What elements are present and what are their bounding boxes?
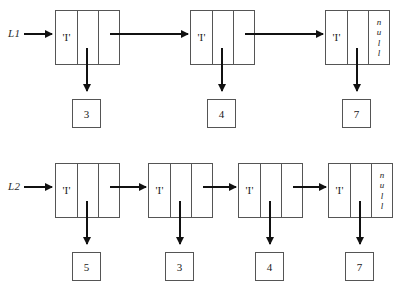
linked-list-diagram: L1 'I' 3 'I' 4: [0, 0, 401, 307]
null-char: l: [381, 191, 384, 201]
node-char-label: 'I': [62, 32, 70, 43]
node-cell-char: 'I': [191, 11, 212, 64]
node-cell-char: 'I': [329, 164, 350, 217]
next-pointer-arrow: [110, 33, 188, 35]
head-arrow-l1: [24, 33, 52, 35]
node-cell-next-pointer: [281, 164, 302, 217]
node-cell-char: 'I': [56, 164, 77, 217]
head-arrow-l2: [24, 186, 52, 188]
value-box: 5: [72, 252, 101, 281]
next-pointer-arrow: [245, 33, 323, 35]
value-pointer-arrow: [356, 48, 358, 91]
node-cell-char: 'I': [326, 11, 347, 64]
node-cell-next-pointer: [233, 11, 254, 64]
node-cell-next-pointer: [191, 164, 212, 217]
value-pointer-arrow: [86, 48, 88, 91]
value-box: 4: [207, 99, 236, 128]
node-char-label: 'I': [155, 185, 163, 196]
value-pointer-arrow: [269, 201, 271, 244]
list-row-l2: L2 'I' 5 'I' 3: [0, 153, 401, 307]
node-char-label: 'I': [335, 185, 343, 196]
value-text: 7: [354, 108, 360, 120]
node-cell-next-pointer: [98, 11, 119, 64]
value-box: 7: [345, 252, 374, 281]
next-pointer-arrow: [203, 186, 236, 188]
node-cell-char: 'I': [149, 164, 170, 217]
node-char-label: 'I': [332, 32, 340, 43]
value-pointer-arrow: [221, 48, 223, 91]
value-box: 3: [165, 252, 194, 281]
next-pointer-arrow: [110, 186, 146, 188]
node-cell-next-null: n u l l: [368, 11, 389, 64]
value-pointer-arrow: [359, 201, 361, 244]
null-label: n u l l: [380, 170, 385, 211]
list-head-label-l2: L2: [8, 180, 20, 192]
list-head-label-l1: L1: [8, 27, 20, 39]
node-char-label: 'I': [245, 185, 253, 196]
null-label: n u l l: [377, 17, 382, 58]
null-char: n: [380, 170, 385, 180]
null-char: u: [377, 27, 382, 37]
value-text: 5: [84, 261, 90, 273]
node-cell-char: 'I': [239, 164, 260, 217]
value-pointer-arrow: [86, 201, 88, 244]
value-text: 3: [177, 261, 183, 273]
null-char: n: [377, 17, 382, 27]
value-text: 3: [84, 108, 90, 120]
node-cell-next-null: n u l l: [371, 164, 392, 217]
value-pointer-arrow: [179, 201, 181, 244]
value-box: 4: [255, 252, 284, 281]
value-text: 7: [357, 261, 363, 273]
value-text: 4: [219, 108, 225, 120]
null-char: l: [381, 201, 384, 211]
value-box: 7: [342, 99, 371, 128]
null-char: l: [378, 38, 381, 48]
null-char: u: [380, 180, 385, 190]
list-row-l1: L1 'I' 3 'I' 4: [0, 0, 401, 153]
node-char-label: 'I': [62, 185, 70, 196]
next-pointer-arrow: [293, 186, 326, 188]
null-char: l: [378, 48, 381, 58]
node-cell-next-pointer: [98, 164, 119, 217]
value-box: 3: [72, 99, 101, 128]
node-char-label: 'I': [197, 32, 205, 43]
node-cell-char: 'I': [56, 11, 77, 64]
value-text: 4: [267, 261, 273, 273]
